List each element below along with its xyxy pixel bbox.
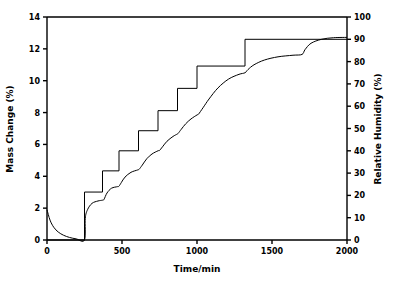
x-tick-label: 500 bbox=[114, 247, 131, 256]
y2-tick-label: 30 bbox=[354, 169, 366, 178]
series-line-relative-humidity bbox=[47, 39, 347, 240]
chart-figure: 0500100015002000 02468101214 01020304050… bbox=[0, 0, 394, 282]
y2-tick-label: 40 bbox=[354, 147, 366, 156]
y-tick-label: 4 bbox=[34, 172, 40, 181]
x-axis: 0500100015002000 bbox=[44, 240, 358, 256]
y2-tick-label: 50 bbox=[354, 125, 366, 134]
y-tick-label: 2 bbox=[34, 204, 40, 213]
x-tick-label: 1500 bbox=[261, 247, 284, 256]
y-tick-label: 12 bbox=[29, 45, 40, 54]
y-tick-label: 8 bbox=[34, 109, 40, 118]
x-tick-label: 1000 bbox=[186, 247, 209, 256]
y2-tick-label: 90 bbox=[354, 35, 366, 44]
y-axis-title: Mass Change (%) bbox=[5, 85, 15, 172]
y-tick-label: 0 bbox=[34, 236, 40, 245]
y2-tick-label: 80 bbox=[354, 58, 366, 67]
y2-tick-label: 60 bbox=[354, 102, 366, 111]
y2-tick-label: 10 bbox=[354, 214, 366, 223]
y2-tick-label: 0 bbox=[354, 236, 360, 245]
y-axis-mass-change: 02468101214 bbox=[29, 13, 47, 245]
chart-canvas: 0500100015002000 02468101214 01020304050… bbox=[0, 0, 394, 282]
y-axis-relative-humidity: 0102030405060708090100 bbox=[347, 13, 371, 245]
y-tick-label: 10 bbox=[29, 77, 41, 86]
plot-frame bbox=[47, 17, 347, 240]
y2-tick-label: 20 bbox=[354, 191, 366, 200]
x-tick-label: 2000 bbox=[336, 247, 359, 256]
data-series-group bbox=[47, 37, 347, 241]
x-tick-label: 0 bbox=[44, 247, 50, 256]
y2-tick-label: 100 bbox=[354, 13, 371, 22]
y-tick-label: 6 bbox=[34, 140, 40, 149]
y2-tick-label: 70 bbox=[354, 80, 366, 89]
y2-axis-title: Relative Humidity (%) bbox=[373, 73, 383, 184]
y-tick-label: 14 bbox=[29, 13, 41, 22]
x-axis-title: Time/min bbox=[174, 264, 221, 274]
